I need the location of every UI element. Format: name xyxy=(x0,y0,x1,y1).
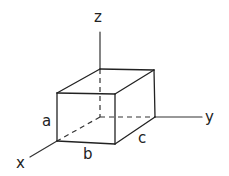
y-axis-label: y xyxy=(205,108,214,126)
box-diagram: z y x a b c xyxy=(0,0,229,176)
top-left-edge xyxy=(57,69,100,93)
hidden-edge-depth xyxy=(57,117,100,141)
height-label: a xyxy=(42,112,51,130)
front-bottom-edge xyxy=(57,141,115,144)
x-axis xyxy=(30,141,57,157)
top-front-edge xyxy=(57,93,115,94)
x-axis-label: x xyxy=(16,154,25,172)
z-axis-label: z xyxy=(94,8,102,26)
width-label: b xyxy=(83,145,93,163)
depth-label: c xyxy=(138,129,146,147)
back-right-edge xyxy=(154,70,155,117)
bottom-right-edge xyxy=(115,117,155,144)
top-back-edge xyxy=(100,69,154,70)
top-right-edge xyxy=(115,70,154,94)
